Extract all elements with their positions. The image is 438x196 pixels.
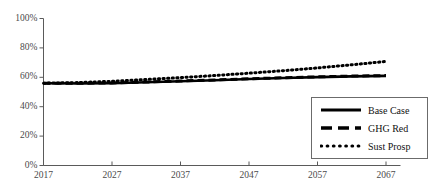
x-axis-tick-label: 2037 — [161, 170, 201, 180]
y-axis-tick-label: 80% — [20, 42, 37, 52]
x-axis-tick-label: 2057 — [298, 170, 338, 180]
legend-item-base-case[interactable]: Base Case — [320, 101, 421, 119]
chart-series-group — [44, 61, 387, 83]
chart-container: 0%20%40%60%80%100% 201720272037204720572… — [0, 0, 438, 196]
y-axis-tick-label: 0% — [25, 160, 38, 170]
legend-swatch-dashed-icon — [320, 122, 362, 134]
y-axis-tick-label: 20% — [20, 130, 37, 140]
legend-label: Base Case — [368, 105, 409, 116]
chart-legend: Base CaseGHG RedSust Prosp — [311, 97, 428, 159]
legend-item-sust-prosp[interactable]: Sust Prosp — [320, 137, 421, 155]
x-axis-tick-label: 2017 — [24, 170, 64, 180]
y-axis-tick-label: 40% — [20, 101, 37, 111]
y-axis-tick-label: 100% — [15, 13, 37, 23]
legend-item-ghg-red[interactable]: GHG Red — [320, 119, 421, 137]
legend-swatch-dotted-icon — [320, 140, 362, 152]
x-axis-tick-label: 2047 — [229, 170, 269, 180]
legend-swatch-solid-icon — [320, 104, 362, 116]
legend-label: GHG Red — [368, 123, 408, 134]
y-axis-tick-label: 60% — [20, 71, 37, 81]
x-axis-tick-label: 2027 — [92, 170, 132, 180]
legend-label: Sust Prosp — [368, 141, 411, 152]
x-axis-tick-label: 2067 — [366, 170, 406, 180]
